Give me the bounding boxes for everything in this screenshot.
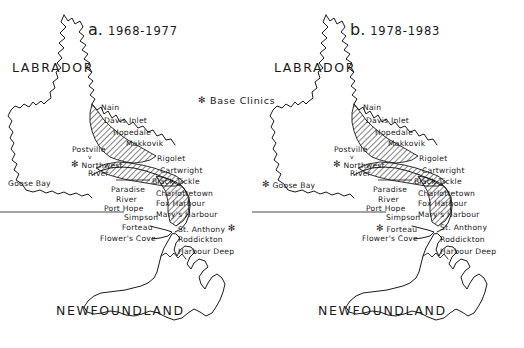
place-label-goose-bay-b: ✻ Goose Bay <box>262 180 315 190</box>
region-label-labrador-a: LABRADOR <box>12 62 94 75</box>
place-label-harbour-deep-a: Harbour Deep <box>178 248 234 256</box>
place-label-hopedale-a: Hopedale <box>113 129 151 137</box>
asterisk-icon: ✻ <box>71 159 79 169</box>
place-label-goose-bay-text: Goose Bay <box>272 181 315 190</box>
place-label-davis-inlet-a: Davis Inlet <box>104 117 147 125</box>
place-label-st-anthony-text: St. Anthony <box>178 225 225 234</box>
place-label-cartwright-b: Cartwright <box>422 167 465 175</box>
place-label-paradise-a: Paradise <box>111 186 145 194</box>
place-label-simpson-a: Simpson <box>124 214 158 222</box>
place-label-black-tickle-a: Black Tickle <box>152 178 200 186</box>
place-label-paradise-river-a: River <box>116 196 137 204</box>
place-label-fox-harbour-b: Fox Harbour <box>418 200 467 208</box>
region-label-newfoundland-b: NEWFOUNDLAND <box>318 305 447 318</box>
panel-b-title: b.1978-1983 <box>350 22 440 38</box>
place-label-st-anthony-b: St. Anthony <box>440 224 487 232</box>
place-label-st-anthony-a: St. Anthony ✻ <box>178 224 236 234</box>
figure-root: a.1968-1977 LABRADOR NEWFOUNDLAND ✻ Base… <box>0 0 524 348</box>
place-label-fox-harbour-a: Fox Harbour <box>156 200 205 208</box>
place-label-river-nw-a: River <box>88 170 109 178</box>
place-label-goose-bay-a: Goose Bay <box>8 180 51 188</box>
place-label-forteau-text: Forteau <box>386 225 417 234</box>
panel-a-letter: a. <box>88 20 103 39</box>
region-label-newfoundland-a: NEWFOUNDLAND <box>56 305 185 318</box>
labrador-outline-b <box>270 15 354 198</box>
asterisk-icon: ✻ <box>198 95 206 105</box>
place-label-cartwright-a: Cartwright <box>160 167 203 175</box>
asterisk-icon: ✻ <box>376 223 384 233</box>
asterisk-icon: ✻ <box>333 159 341 169</box>
place-label-flowers-cove-b: Flower's Cove <box>362 235 418 243</box>
panel-b-years: 1978-1983 <box>370 24 440 38</box>
place-label-nain-b: Nain <box>363 104 381 112</box>
place-label-marys-harbour-a: Mary's Harbour <box>156 211 218 219</box>
place-label-black-tickle-b: Black Tickle <box>414 178 462 186</box>
panel-a-title: a.1968-1977 <box>88 22 178 38</box>
place-label-rigolet-b: Rigolet <box>419 155 447 163</box>
place-label-nain-a: Nain <box>101 104 119 112</box>
place-label-river-nw-b: River <box>350 170 371 178</box>
asterisk-icon: ✻ <box>228 223 236 233</box>
place-label-rigolet-a: Rigolet <box>157 155 185 163</box>
place-label-makkovik-b: Makkovik <box>388 140 425 148</box>
panel-a-years: 1968-1977 <box>108 24 178 38</box>
place-label-roddickton-a: Roddickton <box>178 236 223 244</box>
place-label-marys-harbour-b: Mary's Harbour <box>418 211 480 219</box>
legend-base-clinics: ✻ Base Clinics <box>198 96 275 106</box>
region-label-labrador-b: LABRADOR <box>274 62 356 75</box>
panel-b-letter: b. <box>350 20 365 39</box>
place-label-charlottetown-a: Charlottetown <box>156 190 213 198</box>
place-label-harbour-deep-b: Harbour Deep <box>440 248 496 256</box>
place-label-flowers-cove-a: Flower's Cove <box>100 235 156 243</box>
place-label-makkovik-a: Makkovik <box>126 140 163 148</box>
legend-label: Base Clinics <box>210 95 275 106</box>
place-label-simpson-b: Simpson <box>386 214 420 222</box>
place-label-roddickton-b: Roddickton <box>440 236 485 244</box>
place-label-charlottetown-b: Charlottetown <box>418 190 475 198</box>
place-label-paradise-b: Paradise <box>373 186 407 194</box>
place-label-hopedale-b: Hopedale <box>375 129 413 137</box>
place-label-davis-inlet-b: Davis Inlet <box>366 117 409 125</box>
place-label-port-hope-a: Port Hope <box>104 205 144 213</box>
asterisk-icon: ✻ <box>262 179 270 189</box>
place-label-port-hope-b: Port Hope <box>366 205 406 213</box>
place-label-forteau-a: Forteau <box>122 224 153 232</box>
labrador-outline-a <box>8 15 92 198</box>
place-label-paradise-river-b: River <box>378 196 399 204</box>
place-label-forteau-b: ✻ Forteau <box>376 224 417 234</box>
